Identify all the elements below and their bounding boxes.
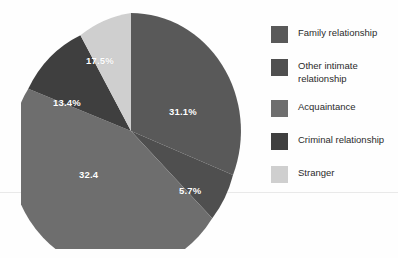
pie-label-stranger: 17.5% — [86, 55, 114, 66]
pie-label-criminal: 13.4% — [53, 97, 81, 108]
legend-swatch-icon — [271, 59, 288, 76]
legend-item-criminal[interactable]: Criminal relationship — [271, 133, 398, 150]
legend-item-label: Stranger — [298, 166, 334, 180]
legend-swatch-icon — [271, 166, 288, 183]
legend-item-label: Acquaintance — [298, 100, 356, 114]
legend-item-label: Family relationship — [298, 26, 377, 40]
pie-chart-svg — [21, 13, 241, 249]
pie-label-acquaintance: 32.4 — [79, 169, 98, 180]
legend-item-stranger[interactable]: Stranger — [271, 166, 398, 183]
legend-item-label: Other intimate relationship — [298, 59, 398, 85]
pie-chart-area: 31.1% 5.7% 32.4 13.4% 17.5% — [0, 0, 262, 258]
pie-label-other-intimate: 5.7% — [179, 185, 201, 196]
legend-item-acquaintance[interactable]: Acquaintance — [271, 100, 398, 117]
chart-page: 31.1% 5.7% 32.4 13.4% 17.5% Family relat… — [0, 0, 398, 258]
chart-legend: Family relationship Other intimate relat… — [271, 26, 398, 199]
legend-item-other-intimate[interactable]: Other intimate relationship — [271, 59, 398, 85]
pie-label-family: 31.1% — [169, 106, 197, 117]
legend-swatch-icon — [271, 26, 288, 43]
legend-swatch-icon — [271, 133, 288, 150]
legend-item-label: Criminal relationship — [298, 133, 384, 147]
legend-item-family[interactable]: Family relationship — [271, 26, 398, 43]
legend-swatch-icon — [271, 100, 288, 117]
